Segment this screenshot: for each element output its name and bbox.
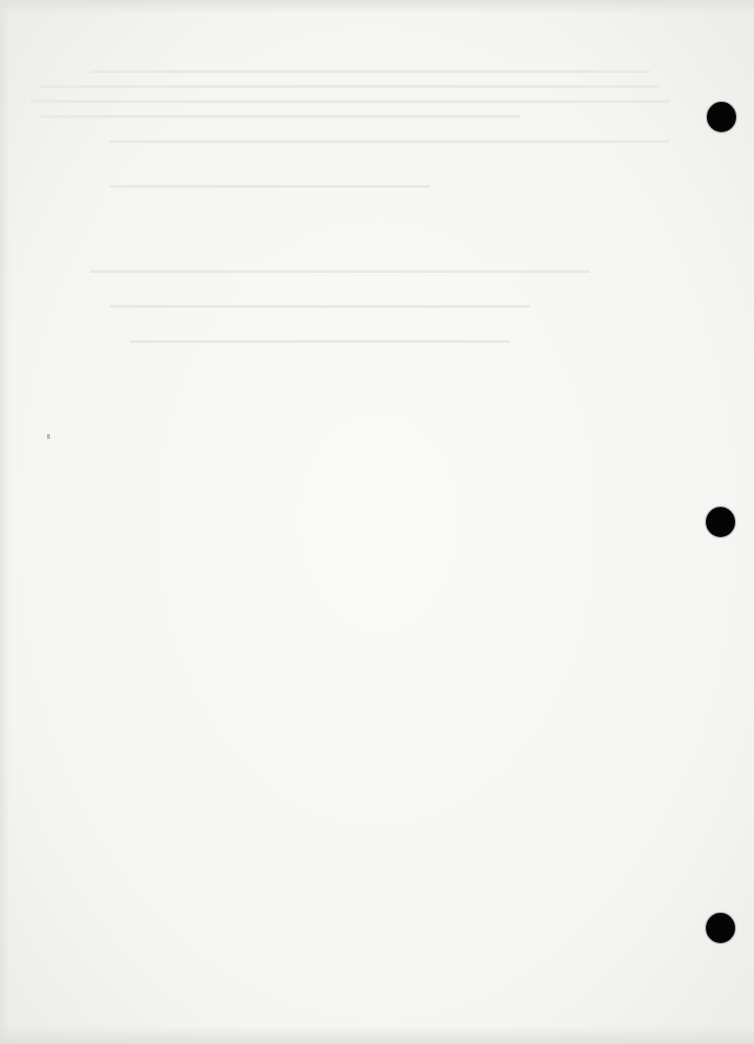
bleed-through-line (110, 140, 670, 143)
scanned-page (0, 0, 754, 1044)
bleed-through-line (110, 305, 530, 308)
bleed-through-line (40, 85, 660, 88)
paper-speck (47, 434, 50, 439)
punch-hole-1 (707, 102, 736, 132)
bleed-through-line (30, 100, 670, 103)
punch-hole-2 (706, 507, 735, 537)
bleed-through-line (90, 70, 650, 73)
scan-edge-shadow-top (0, 0, 754, 14)
punch-hole-3 (706, 913, 735, 943)
bleed-through-line (90, 270, 590, 273)
bleed-through-line (110, 185, 430, 188)
scan-edge-shadow-bottom (0, 1026, 754, 1044)
scan-edge-shadow-left (0, 0, 10, 1044)
bleed-through-line (40, 115, 520, 118)
bleed-through-line (130, 340, 510, 343)
